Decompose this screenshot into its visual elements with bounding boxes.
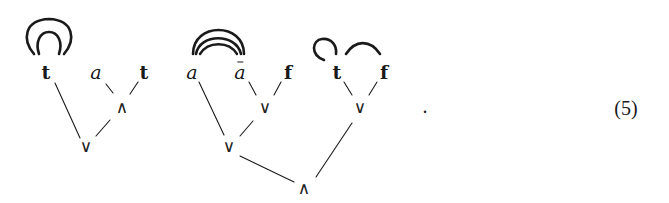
leaf-a: a [90, 63, 101, 82]
leaf-t: t [42, 63, 51, 82]
leaf-t: t [333, 63, 342, 82]
terminator-period: . [423, 96, 428, 116]
or-node: ∨ [354, 99, 366, 116]
equation-number: (5) [614, 98, 637, 118]
diagram-canvas [0, 0, 669, 203]
triple-arc-inner-icon [200, 44, 237, 54]
leaf-f: f [284, 63, 292, 82]
or-node: ∨ [80, 138, 92, 155]
or-node: ∨ [223, 138, 235, 155]
and-node: ∧ [116, 99, 128, 116]
double-loop-link-icon [27, 19, 71, 54]
leaf-t: t [140, 63, 149, 82]
and-node: ∧ [298, 180, 310, 197]
triple-arc-link-icon [193, 30, 244, 54]
self-loop-link-icon [314, 39, 336, 60]
leaf-a: a [186, 63, 197, 82]
arc-link-icon [346, 43, 380, 54]
leaf-f: f [380, 63, 388, 82]
leaf-a-bar: a [234, 63, 245, 82]
or-node: ∨ [259, 99, 271, 116]
a-bar-glyph: a [234, 63, 245, 82]
tree-edges [55, 82, 377, 182]
